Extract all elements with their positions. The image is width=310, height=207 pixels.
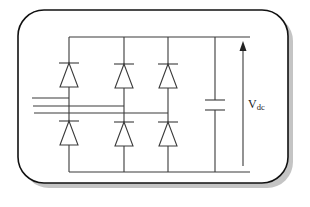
vdc-label-main: V [248, 97, 257, 111]
rectifier-diagram: Vdc [0, 0, 310, 207]
vdc-label-sub: dc [257, 102, 265, 112]
